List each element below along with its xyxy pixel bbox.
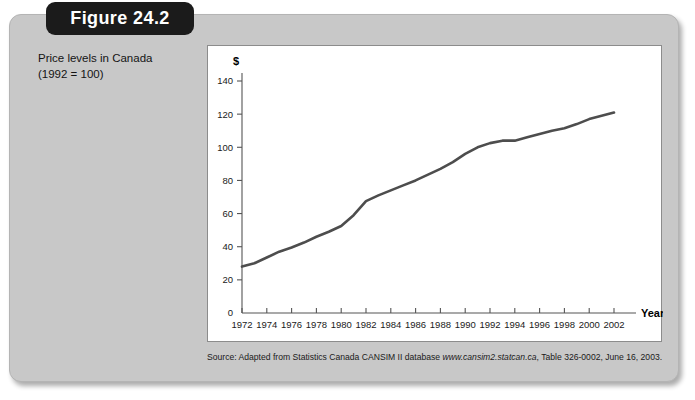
- x-tick-label: 2002: [603, 319, 624, 330]
- x-tick-label: 1972: [231, 319, 252, 330]
- y-tick-label: 140: [217, 75, 233, 86]
- figure-container: Figure 24.2 Price levels in Canada (1992…: [0, 0, 695, 400]
- x-tick-label: 1998: [554, 319, 575, 330]
- y-tick-label: 20: [222, 274, 233, 285]
- source-prefix: Source: Adapted from Statistics Canada C…: [207, 352, 443, 362]
- x-tick-label: 1982: [355, 319, 376, 330]
- x-tick-label: 1984: [380, 319, 401, 330]
- source-url: www.cansim2.statcan.ca: [443, 352, 537, 362]
- figure-number-label: Figure 24.2: [70, 8, 169, 29]
- x-tick-label: 1974: [256, 319, 277, 330]
- y-tick-label: 80: [222, 175, 233, 186]
- x-tick-label: 2000: [579, 319, 600, 330]
- x-tick-label: 1990: [455, 319, 476, 330]
- figure-caption: Price levels in Canada (1992 = 100): [38, 50, 203, 82]
- figure-number-tab: Figure 24.2: [46, 2, 194, 35]
- y-tick-label: 40: [222, 241, 233, 252]
- caption-line-1: Price levels in Canada: [38, 50, 203, 66]
- plot-panel: 020406080100120140$197219741976197819801…: [207, 45, 662, 342]
- y-tick-label: 0: [228, 307, 233, 318]
- y-tick-label: 60: [222, 208, 233, 219]
- y-tick-label: 120: [217, 109, 233, 120]
- x-tick-label: 1994: [504, 319, 525, 330]
- y-tick-label: 100: [217, 142, 233, 153]
- x-tick-label: 1992: [479, 319, 500, 330]
- x-axis-title: Year: [641, 307, 663, 319]
- x-tick-label: 1976: [281, 319, 302, 330]
- y-axis-title: $: [233, 55, 239, 67]
- x-tick-label: 1988: [430, 319, 451, 330]
- line-chart: 020406080100120140$197219741976197819801…: [208, 46, 663, 343]
- x-tick-label: 1980: [331, 319, 352, 330]
- source-suffix: , Table 326-0002, June 16, 2003.: [537, 352, 663, 362]
- x-tick-label: 1996: [529, 319, 550, 330]
- caption-line-2: (1992 = 100): [38, 66, 203, 82]
- data-series-line: [242, 112, 614, 266]
- x-tick-label: 1978: [306, 319, 327, 330]
- source-note: Source: Adapted from Statistics Canada C…: [207, 352, 677, 362]
- x-tick-label: 1986: [405, 319, 426, 330]
